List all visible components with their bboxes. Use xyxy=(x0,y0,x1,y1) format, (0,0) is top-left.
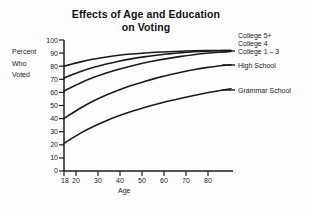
curve-grammar-school xyxy=(64,89,231,144)
chart-container: Effects of Age and Education on Voting P… xyxy=(0,0,313,217)
data-curves xyxy=(64,50,231,143)
curve-high-school xyxy=(64,65,231,119)
curve-college-4 xyxy=(64,50,231,78)
label-leader-lines xyxy=(222,51,235,90)
curve-college-1-3 xyxy=(64,52,231,92)
plot-area xyxy=(0,0,313,217)
